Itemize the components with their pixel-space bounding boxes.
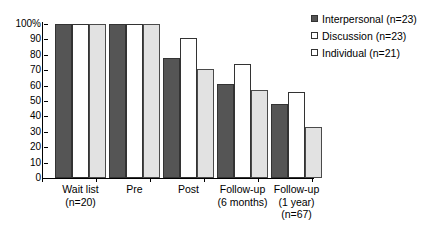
bar: [271, 104, 288, 178]
y-axis-tick-label: 20: [30, 141, 41, 152]
legend-item[interactable]: Discussion (n=23): [311, 28, 417, 43]
bar: [251, 90, 268, 178]
legend-item-label: Discussion (n=23): [322, 30, 406, 42]
y-axis-tick-mark: [44, 178, 48, 179]
y-axis-tick-label: 80: [30, 49, 41, 60]
bar-group: [217, 24, 268, 178]
y-axis-tick-label: 90: [30, 33, 41, 44]
y-axis-tick-label: 60: [30, 80, 41, 91]
bar: [126, 24, 143, 178]
x-axis-tick-mark: [258, 178, 259, 182]
bar-group: [55, 24, 106, 178]
x-axis-category-label-line: (1 year): [257, 196, 337, 209]
plot-area: [42, 24, 312, 178]
y-axis-tick-label: 100%: [15, 18, 41, 29]
x-axis-category-label-line: Follow-up: [257, 183, 337, 196]
bar-group: [109, 24, 160, 178]
y-axis-tick-label: 0: [35, 172, 41, 183]
bar: [288, 92, 305, 178]
open-square-icon: [311, 49, 318, 56]
x-axis-tick-mark: [96, 178, 97, 182]
bar: [72, 24, 89, 178]
bar: [109, 24, 126, 178]
bar: [163, 58, 180, 178]
y-axis-tick-label: 50: [30, 95, 41, 106]
legend-item[interactable]: Interpersonal (n=23): [311, 11, 417, 26]
x-axis-line: [42, 178, 314, 179]
x-axis-category-label-line: (n=20): [41, 196, 121, 209]
bar: [305, 127, 322, 178]
bar: [197, 69, 214, 178]
bar: [89, 24, 106, 178]
filled-dark-square-icon: [311, 15, 318, 22]
bar-chart-figure: 100%9080706050403020100 Wait list(n=20)P…: [0, 0, 422, 228]
bar: [234, 64, 251, 178]
legend-item-label: Interpersonal (n=23): [322, 13, 417, 25]
x-axis-tick-mark: [42, 178, 43, 182]
x-axis-tick-mark: [204, 178, 205, 182]
y-axis-tick-label: 40: [30, 110, 41, 121]
chart-legend: Interpersonal (n=23)Discussion (n=23)Ind…: [311, 11, 417, 62]
bar: [143, 24, 160, 178]
y-axis-tick-label: 30: [30, 126, 41, 137]
open-square-icon: [311, 32, 318, 39]
legend-item-label: Individual (n=21): [322, 47, 400, 59]
y-axis-tick-label: 10: [30, 157, 41, 168]
x-axis-category-label: Follow-up(1 year)(n=67): [257, 183, 337, 221]
legend-item[interactable]: Individual (n=21): [311, 45, 417, 60]
bar: [55, 24, 72, 178]
x-axis-tick-mark: [312, 178, 313, 182]
bar: [180, 38, 197, 178]
y-axis-tick-label: 70: [30, 64, 41, 75]
bar-group: [163, 24, 214, 178]
bar: [217, 84, 234, 178]
x-axis-category-label-line: (n=67): [257, 208, 337, 221]
x-axis-tick-mark: [150, 178, 151, 182]
